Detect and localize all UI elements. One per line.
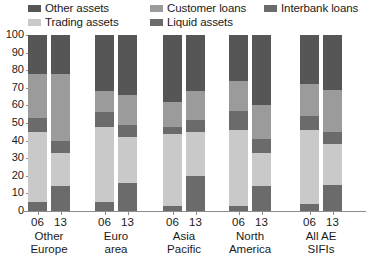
bar-segment — [229, 111, 248, 130]
bar-stack — [51, 35, 70, 211]
bar-segment — [118, 125, 137, 137]
x-axis-tick — [310, 211, 311, 215]
bar-segment — [95, 202, 114, 211]
bar-segment — [51, 141, 70, 153]
bar-stack — [28, 35, 47, 211]
legend-label-interbank-loans: Interbank loans — [281, 2, 358, 15]
legend-item-customer-loans: Customer loans — [150, 2, 246, 15]
bar-segment — [323, 35, 342, 90]
legend-label-customer-loans: Customer loans — [167, 2, 246, 15]
legend-item-trading-assets: Trading assets — [28, 16, 119, 29]
y-axis-tick-label: 50 — [0, 117, 24, 128]
x-axis-year-label: 13 — [323, 216, 342, 228]
bar-segment — [229, 35, 248, 81]
bar-segment — [186, 91, 205, 119]
group-label-line2: SIFIs — [281, 243, 361, 256]
y-axis-tick-label: 20 — [0, 170, 24, 181]
y-axis-tick-label: 40 — [0, 135, 24, 146]
bar-segment — [118, 35, 137, 95]
bar-stack — [186, 35, 205, 211]
bar-segment — [186, 35, 205, 91]
y-axis-tick-label: 10 — [0, 187, 24, 198]
bar-segment — [28, 35, 47, 74]
x-axis-year-label: 13 — [51, 216, 70, 228]
bar-segment — [229, 81, 248, 111]
legend-swatch-liquid-assets — [150, 19, 163, 26]
bar-segment — [51, 74, 70, 141]
legend-item-interbank-loans: Interbank loans — [264, 2, 358, 15]
x-axis-ticks — [0, 211, 368, 215]
legend-swatch-customer-loans — [150, 5, 163, 12]
legend-item-liquid-assets: Liquid assets — [150, 16, 233, 29]
bar-segment — [186, 120, 205, 132]
x-axis-year-label: 13 — [252, 216, 271, 228]
x-axis-tick — [128, 211, 129, 215]
group-label-line1: All AE — [281, 230, 361, 243]
legend-swatch-trading-assets — [28, 19, 41, 26]
bar-segment — [252, 153, 271, 186]
y-axis-labels: 1009080706050403020100 — [0, 0, 24, 259]
bar-segment — [323, 132, 342, 144]
bar-segment — [163, 102, 182, 127]
bar-segment — [28, 74, 47, 118]
bar-segment — [28, 132, 47, 202]
bar-segment — [118, 183, 137, 211]
bar-segment — [300, 204, 319, 211]
y-axis-tick-label: 70 — [0, 82, 24, 93]
group-label-line1: North — [210, 230, 290, 243]
x-axis-group-label: All AESIFIs — [281, 230, 361, 256]
legend-label-liquid-assets: Liquid assets — [167, 16, 233, 29]
bar-stack — [252, 35, 271, 211]
y-axis-tick-label: 80 — [0, 64, 24, 75]
x-axis-tick — [105, 211, 106, 215]
x-axis-tick — [38, 211, 39, 215]
legend-label-trading-assets: Trading assets — [45, 16, 119, 29]
x-axis-year-label: 06 — [300, 216, 319, 228]
bar-segment — [252, 186, 271, 211]
bar-segment — [95, 91, 114, 112]
bar-segment — [252, 105, 271, 138]
bar-segment — [229, 206, 248, 211]
x-axis-year-label: 06 — [229, 216, 248, 228]
x-axis-tick — [239, 211, 240, 215]
bar-segment — [28, 202, 47, 211]
chart-legend: Other assets Customer loans Interbank lo… — [28, 2, 366, 30]
bar-segment — [51, 35, 70, 74]
bar-segment — [300, 84, 319, 116]
bar-segment — [186, 176, 205, 211]
bar-segment — [95, 35, 114, 91]
bar-segment — [163, 206, 182, 211]
bar-segment — [300, 35, 319, 84]
group-label-line2: America — [210, 243, 290, 256]
bar-segment — [252, 35, 271, 105]
bar-segment — [229, 130, 248, 206]
x-axis-year-label: 13 — [186, 216, 205, 228]
legend-label-other-assets: Other assets — [45, 2, 109, 15]
bar-segment — [323, 144, 342, 184]
bar-segment — [300, 130, 319, 204]
x-axis-group-label: NorthAmerica — [210, 230, 290, 256]
bar-segment — [163, 127, 182, 134]
bar-segment — [51, 186, 70, 211]
bar-segment — [163, 35, 182, 102]
bar-segment — [323, 90, 342, 132]
stacked-bar-chart: Other assets Customer loans Interbank lo… — [0, 0, 368, 259]
x-axis-tick — [196, 211, 197, 215]
x-axis-tick — [173, 211, 174, 215]
bar-segment — [163, 134, 182, 206]
bar-segment — [95, 127, 114, 203]
x-axis-year-label: 13 — [118, 216, 137, 228]
bar-segment — [186, 132, 205, 176]
bar-stack — [229, 35, 248, 211]
bar-segment — [323, 185, 342, 211]
bar-segment — [95, 112, 114, 126]
legend-swatch-interbank-loans — [264, 5, 277, 12]
x-axis-tick — [333, 211, 334, 215]
bar-segment — [118, 95, 137, 125]
bar-stack — [300, 35, 319, 211]
y-axis-tick-label: 90 — [0, 47, 24, 58]
bar-segment — [28, 118, 47, 132]
bar-stack — [118, 35, 137, 211]
y-axis-tick-label: 30 — [0, 152, 24, 163]
legend-swatch-other-assets — [28, 5, 41, 12]
